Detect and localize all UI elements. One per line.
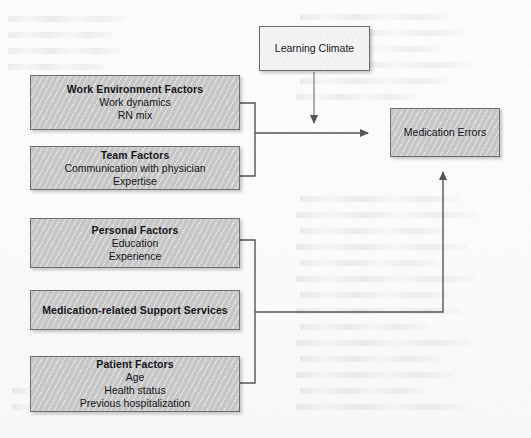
node-title: Patient Factors [96,358,173,371]
node-item: Previous hospitalization [80,397,190,410]
connector-upper-bracket [240,103,368,176]
node-item: Education [112,237,159,250]
node-item: RN mix [118,109,152,122]
node-personal-factors[interactable]: Personal Factors Education Experience [30,218,240,268]
node-medication-errors[interactable]: Medication Errors [390,108,500,157]
node-title: Team Factors [101,149,170,162]
node-item: Expertise [113,175,157,188]
diagram-canvas: Work Environment Factors Work dynamics R… [0,0,531,438]
node-item: Health status [104,384,165,397]
node-title: Work Environment Factors [67,83,203,96]
node-title: Learning Climate [275,42,354,55]
node-title: Medication Errors [404,126,486,139]
node-item: Age [126,371,145,384]
node-learning-climate[interactable]: Learning Climate [259,26,370,71]
node-title: Medication-related Support Services [42,304,228,317]
connector-lower-bracket [240,172,443,383]
node-work-environment-factors[interactable]: Work Environment Factors Work dynamics R… [30,75,240,130]
node-item: Experience [109,250,162,263]
node-item: Work dynamics [99,96,171,109]
node-medication-related-support-services[interactable]: Medication-related Support Services [30,290,240,330]
node-patient-factors[interactable]: Patient Factors Age Health status Previo… [30,356,240,412]
node-item: Communication with physician [64,162,205,175]
node-team-factors[interactable]: Team Factors Communication with physicia… [30,146,240,190]
node-title: Personal Factors [92,224,179,237]
